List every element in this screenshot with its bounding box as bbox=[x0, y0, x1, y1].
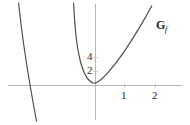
curve-label-gf: Gf bbox=[156, 19, 167, 34]
curve-label-subscript: f bbox=[165, 24, 168, 34]
x-tick-label-1: 1 bbox=[121, 90, 127, 101]
x-tick-label-2: 2 bbox=[152, 90, 158, 101]
y-tick-label-4: 4 bbox=[87, 51, 93, 62]
curve-label-symbol: G bbox=[156, 18, 165, 32]
function-graph-figure: 4 2 1 2 Gf bbox=[0, 0, 190, 125]
curve-main-branch bbox=[74, 3, 152, 83]
y-tick-label-2: 2 bbox=[87, 65, 93, 76]
curve-left-branch bbox=[19, 3, 37, 121]
